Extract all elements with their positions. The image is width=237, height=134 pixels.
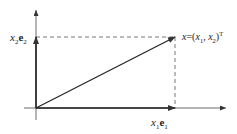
label-x1e1: x1e1 <box>150 116 168 131</box>
label-point-x: x=(x1, x2)T <box>181 30 223 44</box>
vector-diagram: x2e2 x=(x1, x2)T x1e1 <box>0 0 237 134</box>
label-x2e2: x2e2 <box>9 31 27 46</box>
x-vector <box>36 37 175 108</box>
